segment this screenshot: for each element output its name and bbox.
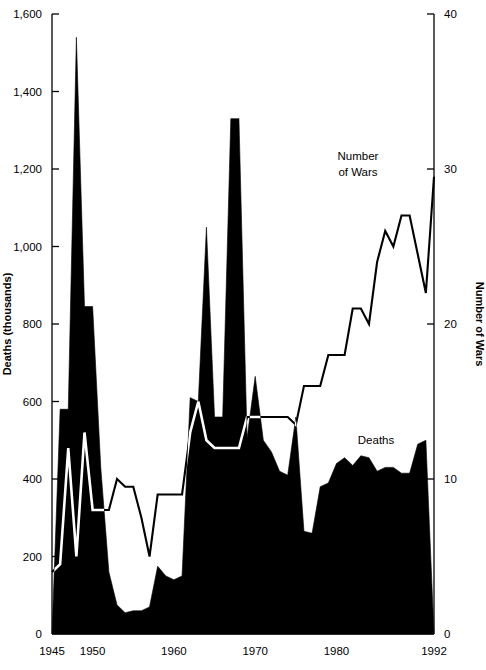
left-axis-tick-label: 1,400 bbox=[13, 86, 42, 98]
plot-area bbox=[52, 37, 434, 634]
left-axis-tick-label: 800 bbox=[23, 318, 42, 330]
left-axis-title: Deaths (thousands) bbox=[1, 272, 13, 375]
right-axis-tick-label: 20 bbox=[444, 318, 457, 330]
x-axis-tick-label: 1980 bbox=[324, 645, 350, 657]
left-axis-tick-label: 1,200 bbox=[13, 163, 42, 175]
chart-figure: 02004006008001,0001,2001,4001,6000102030… bbox=[0, 0, 486, 670]
right-axis-tick-label: 10 bbox=[444, 473, 457, 485]
x-axis-tick-label: 1945 bbox=[39, 645, 65, 657]
right-axis-tick-label: 30 bbox=[444, 163, 457, 175]
left-axis-tick-label: 0 bbox=[36, 628, 42, 640]
left-axis-tick-label: 1,000 bbox=[13, 241, 42, 253]
left-axis-tick-label: 200 bbox=[23, 551, 42, 563]
wars-series-annotation-line1: Number bbox=[338, 150, 379, 162]
right-axis-tick-label: 40 bbox=[444, 8, 457, 20]
left-axis-tick-label: 600 bbox=[23, 396, 42, 408]
x-axis-tick-label: 1950 bbox=[80, 645, 106, 657]
left-axis-tick-label: 1,600 bbox=[13, 8, 42, 20]
wars-and-deaths-chart: 02004006008001,0001,2001,4001,6000102030… bbox=[0, 0, 486, 670]
x-axis-tick-label: 1970 bbox=[242, 645, 268, 657]
deaths-series-annotation: Deaths bbox=[358, 434, 395, 446]
right-axis-tick-label: 0 bbox=[444, 628, 450, 640]
x-axis-tick-label: 1992 bbox=[421, 645, 447, 657]
wars-series-annotation-line2: of Wars bbox=[338, 166, 377, 178]
x-axis-tick-label: 1960 bbox=[161, 645, 187, 657]
deaths-area-series bbox=[52, 37, 434, 634]
left-axis-tick-label: 400 bbox=[23, 473, 42, 485]
right-axis-title: Number of Wars bbox=[474, 282, 486, 367]
